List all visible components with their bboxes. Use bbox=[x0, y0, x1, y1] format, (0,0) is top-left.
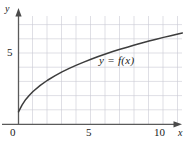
function-curve bbox=[19, 33, 183, 112]
curve-equation-label: y = f(x) bbox=[99, 55, 134, 66]
horizontal-gridlines bbox=[18, 25, 182, 110]
y-tick-label-5: 5 bbox=[7, 47, 13, 58]
x-axis-label: x bbox=[178, 128, 182, 138]
function-graph-figure: y x 5 0 5 10 y = f(x) bbox=[0, 0, 190, 145]
x-tick-label-5: 5 bbox=[86, 127, 92, 138]
x-tick-label-0: 0 bbox=[10, 127, 16, 138]
x-tick-label-10: 10 bbox=[154, 127, 165, 138]
plot-area bbox=[0, 0, 190, 145]
vertical-gridlines bbox=[33, 16, 178, 124]
y-axis-label: y bbox=[5, 4, 9, 14]
